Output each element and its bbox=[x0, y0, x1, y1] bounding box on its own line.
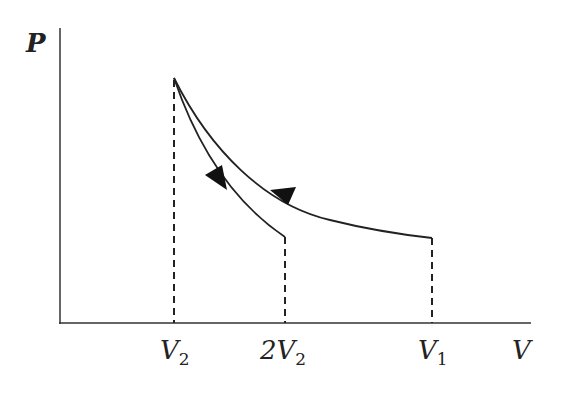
y-axis-label: P bbox=[26, 30, 46, 56]
v2-tick-label: V2 bbox=[160, 337, 190, 368]
x-axis-label: V bbox=[512, 337, 531, 363]
arrow-down-icon bbox=[205, 165, 227, 190]
lower-curve bbox=[174, 78, 285, 237]
upper-curve bbox=[174, 78, 432, 238]
2v2-tick-label: 2V2 bbox=[260, 337, 306, 368]
v1-tick-label: V1 bbox=[418, 337, 448, 368]
